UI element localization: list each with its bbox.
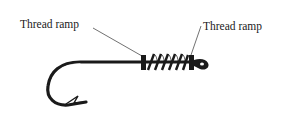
thread-ramp-left bbox=[141, 55, 146, 70]
hook-eye bbox=[194, 59, 209, 70]
leader-line-right bbox=[191, 26, 201, 55]
hook-diagram: Thread ramp Thread ramp bbox=[0, 0, 282, 140]
hook-body bbox=[48, 62, 195, 105]
thread-ramp-label-right: Thread ramp bbox=[203, 21, 262, 33]
thread-ramp-label-left: Thread ramp bbox=[20, 19, 79, 31]
thread-ramp-right bbox=[189, 55, 194, 70]
leader-line-left bbox=[93, 28, 142, 56]
